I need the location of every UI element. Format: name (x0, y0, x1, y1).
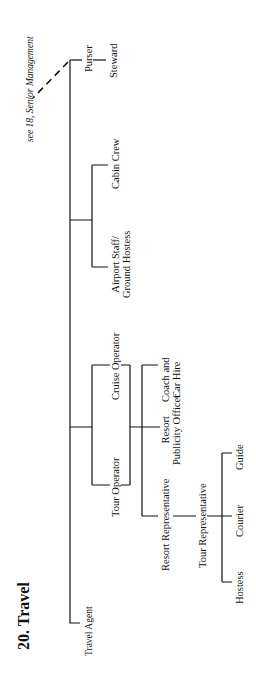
airline-branch (70, 165, 108, 267)
org-chart-lines (0, 0, 256, 684)
node-courier: Courier (234, 505, 245, 537)
label-line-2: Car Hire (171, 357, 182, 402)
label-line-1: Resort (160, 394, 171, 465)
node-cruise-operator: Cruise Operator (110, 333, 121, 400)
node-guide: Guide (234, 444, 245, 470)
label-line-2: Publicity Officer (171, 394, 182, 465)
senior-management-dashed-link (33, 62, 68, 98)
node-travel-agent: Travel Agent (84, 606, 95, 656)
trunk-line (70, 60, 80, 623)
node-cabin-crew: Cabin Crew (110, 139, 121, 189)
tour-rep-children-branch (222, 453, 232, 582)
operator-branch (70, 365, 130, 485)
node-hostess: Hostess (234, 571, 245, 604)
see-also-note: see 18, Senior Management (25, 36, 36, 142)
label-line-2: Ground Hostess (121, 231, 132, 298)
node-tour-representative: Tour Representative (197, 483, 208, 568)
resort-branch (130, 365, 160, 516)
node-tour-operator: Tour Operator (110, 457, 121, 517)
node-purser: Purser (83, 45, 94, 72)
node-coach-car-hire: Coach and Car Hire (160, 357, 182, 402)
node-resort-publicity-officer: Resort Publicity Officer (160, 394, 182, 465)
node-resort-representative: Resort Representative (160, 479, 171, 571)
label-line-1: Coach and (160, 357, 171, 402)
node-steward: Steward (108, 44, 119, 78)
label-line-1: Airport Staff/ (110, 231, 121, 298)
page-title: 20. Travel (15, 582, 33, 650)
node-airport-staff-ground-hostess: Airport Staff/ Ground Hostess (110, 231, 132, 298)
